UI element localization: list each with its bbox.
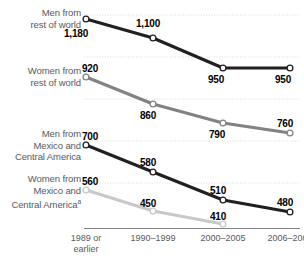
x-tick-0-line1: 1989 or bbox=[71, 233, 102, 243]
series-men-mexico-line bbox=[86, 145, 290, 212]
value-label-women-mexico-2: 410 bbox=[210, 211, 226, 222]
x-tick-0: 1989 or earlier bbox=[52, 233, 120, 255]
series-men-rest-line bbox=[86, 19, 290, 68]
data-point bbox=[83, 142, 89, 148]
value-label-women-mexico-0: 560 bbox=[82, 176, 98, 187]
data-point bbox=[150, 35, 156, 41]
x-tick-0-line2: earlier bbox=[73, 244, 98, 254]
x-tick-1: 1990–1999 bbox=[119, 233, 187, 244]
data-point bbox=[287, 209, 293, 215]
chart-container: Men from rest of world Women from rest o… bbox=[0, 0, 304, 258]
x-tick-2: 2000–2005 bbox=[189, 233, 257, 244]
value-label-men-mexico-0: 700 bbox=[82, 131, 98, 142]
data-point bbox=[150, 169, 156, 175]
series-label-men-mexico-line2: Mexico and bbox=[33, 140, 81, 151]
x-tick-3: 2006–2009 bbox=[256, 233, 304, 244]
data-point bbox=[287, 130, 293, 136]
data-point bbox=[83, 16, 89, 22]
data-point bbox=[83, 187, 89, 193]
value-label-women-mexico-1: 450 bbox=[140, 198, 156, 209]
value-label-men-mexico-1: 580 bbox=[140, 157, 156, 168]
series-label-women-rest-line2: rest of world bbox=[31, 77, 81, 88]
footnote-marker: a bbox=[77, 198, 81, 205]
value-label-men-rest-3: 950 bbox=[275, 74, 291, 85]
value-label-men-rest-2: 950 bbox=[208, 74, 224, 85]
series-label-men-mexico-line1: Men from bbox=[42, 128, 81, 139]
value-label-women-rest-1: 860 bbox=[140, 110, 156, 121]
series-label-men-mexico-line3: Central America bbox=[15, 151, 81, 162]
series-men-mexico bbox=[83, 142, 293, 215]
series-label-women-mexico: Women from Mexico and Central Americaa bbox=[0, 173, 81, 211]
series-label-women-rest: Women from rest of world bbox=[0, 65, 81, 88]
series-men-rest bbox=[83, 16, 293, 71]
series-label-women-rest-line1: Women from bbox=[28, 65, 81, 76]
data-point bbox=[287, 65, 293, 71]
data-point bbox=[150, 101, 156, 107]
data-point bbox=[220, 197, 226, 203]
series-label-men-rest: Men from rest of world bbox=[0, 7, 81, 30]
data-point bbox=[220, 120, 226, 126]
series-women-rest bbox=[83, 74, 293, 136]
value-label-women-rest-2: 790 bbox=[209, 129, 225, 140]
value-label-men-rest-1: 1,100 bbox=[136, 18, 160, 29]
data-point bbox=[220, 65, 226, 71]
series-label-men-rest-line1: Men from bbox=[42, 7, 81, 18]
value-label-men-mexico-2: 510 bbox=[210, 185, 226, 196]
value-label-women-rest-0: 920 bbox=[82, 63, 98, 74]
series-label-women-mexico-line1: Women from bbox=[28, 173, 81, 184]
value-label-women-rest-3: 760 bbox=[277, 118, 293, 129]
series-women-rest-line bbox=[86, 77, 290, 133]
series-label-men-mexico: Men from Mexico and Central America bbox=[0, 128, 81, 163]
value-label-men-rest-0: 1,180 bbox=[64, 28, 88, 39]
value-label-men-mexico-3: 480 bbox=[277, 197, 293, 208]
data-point bbox=[83, 74, 89, 80]
series-label-women-mexico-line3: Central America bbox=[11, 199, 77, 210]
series-label-women-mexico-line2: Mexico and bbox=[33, 185, 81, 196]
